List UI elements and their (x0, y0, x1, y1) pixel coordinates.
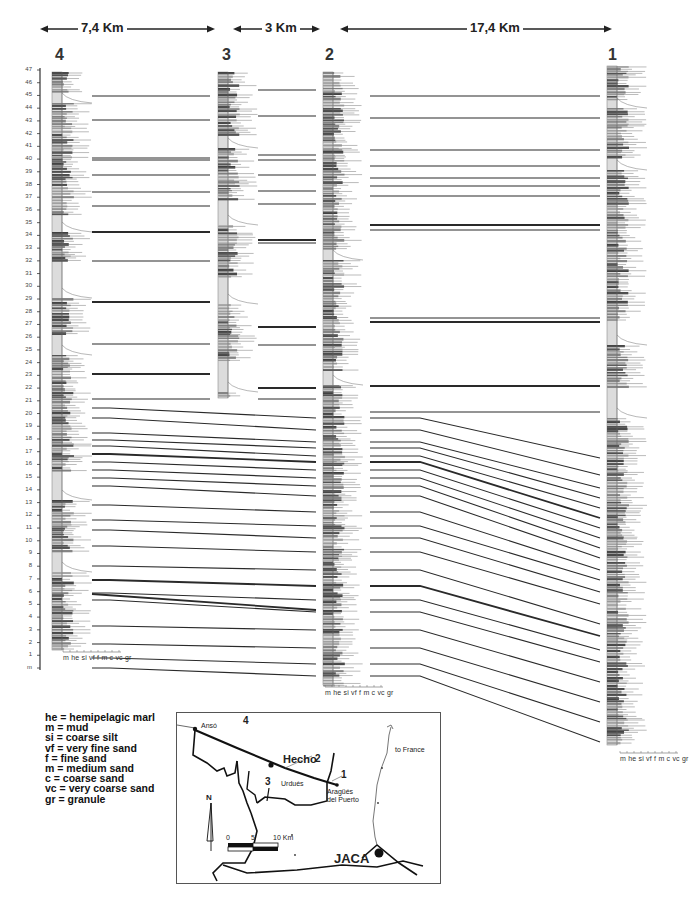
axis-tick-label: 10 (2, 537, 32, 543)
axis-tick-label: m (2, 664, 32, 670)
axis-tick-label: 7 (2, 575, 32, 581)
scale-tick-0: 0 (226, 834, 230, 841)
distance-2-1: 17,4 Km (467, 20, 523, 35)
axis-tick-label: 27 (2, 320, 32, 326)
axis-tick-label: 28 (2, 308, 32, 314)
axis-tick-label: 43 (2, 117, 32, 123)
log-number-4: 4 (55, 46, 64, 64)
axis-tick-label: 1 (2, 651, 32, 657)
axis-tick-label: 30 (2, 282, 32, 288)
axis-tick-label: 26 (2, 333, 32, 339)
axis-tick-label: 38 (2, 181, 32, 187)
map-place-aragues: Aragüés (327, 788, 353, 795)
axis-tick-label: 39 (2, 168, 32, 174)
axis-tick-label: 23 (2, 371, 32, 377)
axis-tick-label: 42 (2, 130, 32, 136)
axis-tick-label: 8 (2, 562, 32, 568)
axis-tick-label: 19 (2, 422, 32, 428)
axis-tick-label: 45 (2, 91, 32, 97)
distance-4-3: 7,4 Km (78, 20, 127, 35)
axis-tick-label: 31 (2, 270, 32, 276)
map-place-france: to France (395, 746, 425, 753)
axis-tick-label: 34 (2, 231, 32, 237)
axis-tick-label: 47 (2, 66, 32, 72)
grain-scale-log4: m he si vf f m c vc gr (63, 654, 132, 661)
axis-tick-label: 16 (2, 460, 32, 466)
axis-tick-label: 22 (2, 384, 32, 390)
map-site-3: 3 (265, 776, 271, 787)
north-arrow-label: N (206, 793, 212, 802)
map-place-hecho: Hecho (283, 753, 317, 765)
distance-3-2: 3 Km (262, 20, 300, 35)
log-number-3: 3 (222, 46, 231, 64)
axis-tick-label: 21 (2, 397, 32, 403)
axis-tick-label: 37 (2, 193, 32, 199)
axis-tick-label: 41 (2, 142, 32, 148)
legend-item: gr = granule (45, 794, 155, 804)
scale-tick-5: 5 (251, 834, 255, 841)
axis-tick-label: 15 (2, 473, 32, 479)
grain-size-legend: he = hemipelagic marl m = mud si = coars… (45, 712, 155, 804)
axis-tick-label: 4 (2, 613, 32, 619)
axis-tick-label: 46 (2, 79, 32, 85)
axis-tick-label: 11 (2, 524, 32, 530)
map-place-urdues: Urdués (281, 780, 304, 787)
log-number-1: 1 (608, 46, 617, 64)
map-site-2: 2 (315, 753, 321, 764)
log-number-2: 2 (325, 46, 334, 64)
axis-tick-label: 33 (2, 244, 32, 250)
map-place-jaca: JACA (334, 851, 369, 866)
axis-tick-label: 36 (2, 206, 32, 212)
axis-tick-label: 12 (2, 511, 32, 517)
axis-tick-label: 29 (2, 295, 32, 301)
axis-tick-label: 18 (2, 435, 32, 441)
scale-tick-10: 10 Km (273, 834, 293, 841)
map-site-4: 4 (243, 715, 249, 726)
grain-scale-log2: m he si vf f m c vc gr (325, 689, 394, 696)
axis-tick-label: 14 (2, 486, 32, 492)
axis-tick-label: 2 (2, 639, 32, 645)
map-roads-rivers (177, 713, 440, 883)
grain-scale-log1: m he si vf f m c vc gr (620, 755, 689, 762)
axis-tick-label: 13 (2, 499, 32, 505)
map-place-aragues-2: del Puerto (327, 796, 359, 803)
axis-tick-label: 6 (2, 588, 32, 594)
axis-tick-label: 40 (2, 155, 32, 161)
axis-tick-label: 3 (2, 626, 32, 632)
map-site-1: 1 (341, 769, 347, 780)
axis-tick-label: 9 (2, 549, 32, 555)
axis-tick-label: 5 (2, 600, 32, 606)
axis-tick-label: 44 (2, 104, 32, 110)
axis-tick-label: 32 (2, 257, 32, 263)
axis-tick-label: 25 (2, 346, 32, 352)
axis-tick-label: 24 (2, 359, 32, 365)
map-place-anso: Ansó (201, 722, 217, 729)
location-map: 4 Ansó Hecho 2 1 3 Urdués Aragüés del Pu… (176, 712, 441, 884)
axis-tick-label: 35 (2, 219, 32, 225)
axis-tick-label: 17 (2, 448, 32, 454)
axis-tick-label: 20 (2, 410, 32, 416)
